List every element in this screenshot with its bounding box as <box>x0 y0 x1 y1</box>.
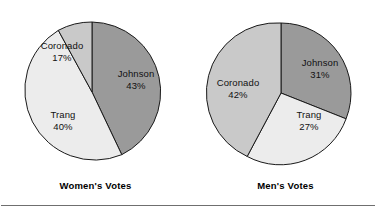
slice-label-trang-value: 40% <box>34 121 92 133</box>
slice-label-johnson-value: 31% <box>289 69 351 81</box>
chart-womens-votes: Coronado 17% Johnson 43% Trang 40% Women… <box>0 0 191 200</box>
slice-label-coronado: Coronado 17% <box>26 40 98 63</box>
slice-label-trang: Trang 40% <box>34 109 92 132</box>
slice-label-trang-name: Trang <box>297 109 322 120</box>
slice-label-trang: Trang 27% <box>280 109 338 132</box>
slice-label-trang-value: 27% <box>280 121 338 133</box>
footer-divider <box>1 205 375 206</box>
slice-label-johnson: Johnson 31% <box>289 57 351 80</box>
slice-label-coronado-value: 17% <box>26 52 98 64</box>
slice-label-coronado-name: Coronado <box>217 77 260 88</box>
slice-label-coronado: Coronado 42% <box>202 77 274 100</box>
slice-label-johnson: Johnson 43% <box>105 68 167 91</box>
slice-label-coronado-name: Coronado <box>41 40 84 51</box>
slice-label-johnson-value: 43% <box>105 80 167 92</box>
womens-votes-title: Women's Votes <box>0 180 191 191</box>
slice-label-johnson-name: Johnson <box>118 68 155 79</box>
mens-votes-title: Men's Votes <box>190 180 381 191</box>
slice-label-coronado-value: 42% <box>202 89 274 101</box>
pie-charts-figure: Coronado 17% Johnson 43% Trang 40% Women… <box>0 0 383 219</box>
chart-mens-votes: Johnson 31% Coronado 42% Trang 27% Men's… <box>190 0 381 200</box>
slice-label-johnson-name: Johnson <box>302 57 339 68</box>
slice-label-trang-name: Trang <box>51 109 76 120</box>
